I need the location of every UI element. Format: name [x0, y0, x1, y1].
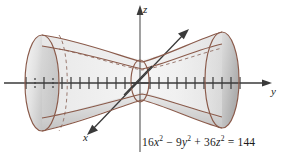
y-axis-label: y: [271, 86, 276, 97]
z-axis-label: z: [143, 4, 147, 15]
figure-container: z y x 16x2 − 9y2 + 36z2 = 144: [0, 0, 286, 161]
x-axis-label: x: [83, 132, 88, 143]
equation-right-hand-side: 144: [237, 136, 255, 148]
equation-coef-z: 36: [204, 136, 216, 148]
equation-op-2: +: [194, 136, 201, 148]
equation-exp-y: 2: [187, 134, 191, 143]
surface-equation-caption: 16x2 − 9y2 + 36z2 = 144: [142, 136, 255, 148]
equation-exp-z: 2: [221, 134, 225, 143]
equation-equals-sign: =: [228, 136, 235, 148]
equation-exp-x: 2: [159, 134, 163, 143]
equation-coef-x: 16: [142, 136, 154, 148]
equation-op-1: −: [166, 136, 173, 148]
surface-fill-group: [25, 32, 239, 131]
